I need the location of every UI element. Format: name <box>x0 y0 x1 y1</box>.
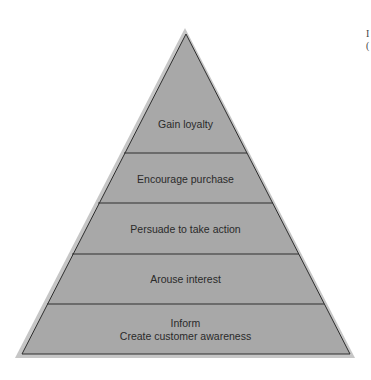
level-1-label: Gain loyalty <box>0 118 371 131</box>
level-5-label: Inform <box>0 317 371 330</box>
level-2-label: Encourage purchase <box>0 173 371 186</box>
level-4-label: Arouse interest <box>0 273 371 286</box>
level-5-sublabel: Create customer awareness <box>0 330 371 343</box>
level-3-label: Persuade to take action <box>0 223 371 236</box>
cropped-text-fragment-2: ( <box>366 40 369 52</box>
pyramid-body <box>22 34 350 354</box>
cropped-text-fragment-1: I <box>366 28 369 40</box>
